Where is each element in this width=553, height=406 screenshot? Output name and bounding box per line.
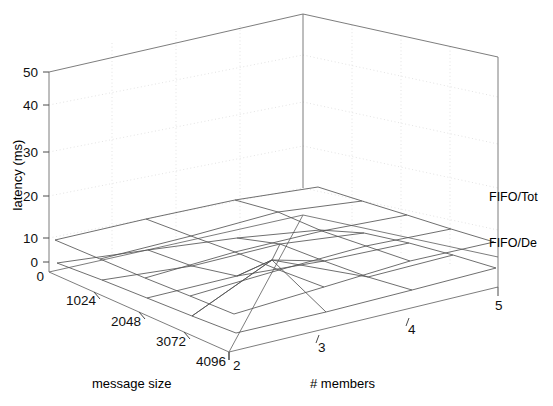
z-tick-label-10: 10 [23,231,38,246]
y-tick-label-2: 2 [233,358,241,373]
x-tick-label-4096: 4096 [196,354,226,369]
x-tick-label-2048: 2048 [111,314,141,329]
y-tick-label-5: 5 [495,298,503,313]
plot-background [0,0,553,406]
y-origin-tick-label: 0 [36,269,44,284]
z-tick-label-20: 20 [23,189,38,204]
y-axis-title: # members [310,376,376,391]
y-tick-label-4: 4 [408,322,416,337]
series-label-fifo-total: FIFO/Tot [489,190,538,204]
z-axis-title: latency (ms) [10,140,25,211]
latency-3d-mesh-plot: 50 40 30 20 10 0 0 latency (ms) 1024 204… [0,0,553,406]
x-tick-label-1024: 1024 [66,293,97,308]
z-tick-label-40: 40 [23,98,38,113]
z-tick-label-30: 30 [23,145,38,160]
z-tick-label-0: 0 [30,255,38,270]
series-label-fifo-deliver: FIFO/De [489,236,537,250]
z-tick-label-50: 50 [23,65,38,80]
x-axis-title: message size [92,376,171,391]
x-tick-label-3072: 3072 [156,334,186,349]
y-tick-label-3: 3 [318,340,326,355]
